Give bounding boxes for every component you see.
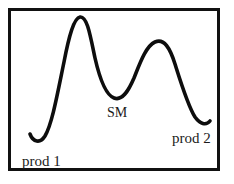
label-prod-1: prod 1 bbox=[22, 154, 61, 169]
label-sm: SM bbox=[107, 106, 127, 120]
label-prod-2: prod 2 bbox=[172, 131, 211, 146]
trace-curve bbox=[30, 17, 210, 141]
chromatogram-figure: prod 1 SM prod 2 bbox=[0, 0, 234, 184]
